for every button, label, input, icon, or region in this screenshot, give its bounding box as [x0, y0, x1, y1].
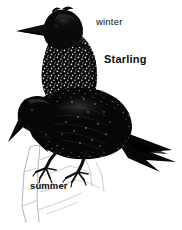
starling-illustration-plate: winter Starling summer: [0, 0, 182, 230]
label-summer: summer: [30, 181, 68, 191]
label-winter: winter: [96, 17, 123, 27]
starling-artwork: [0, 0, 182, 230]
page-title: Starling: [104, 54, 147, 65]
